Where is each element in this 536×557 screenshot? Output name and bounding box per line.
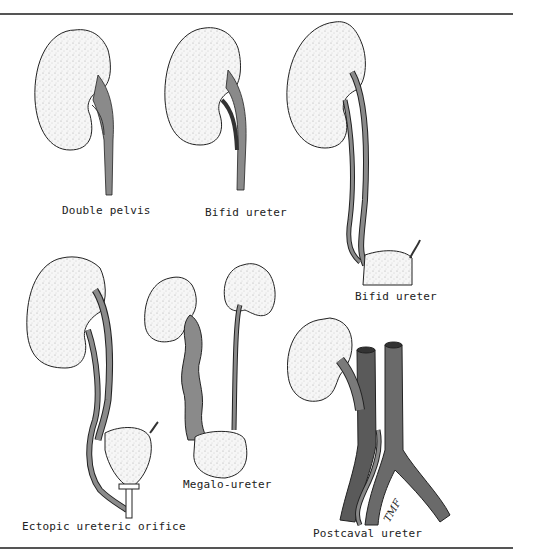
- label-bifid-ureter-2: Bifid ureter: [355, 290, 437, 303]
- urethra: [126, 488, 132, 518]
- panel-postcaval-ureter: [287, 318, 450, 525]
- anomalies-illustration: [0, 0, 536, 557]
- sphincter: [119, 484, 139, 489]
- panel-megalo-ureter: [145, 264, 275, 478]
- label-megalo-ureter: Megalo-ureter: [183, 478, 272, 491]
- megaureter: [182, 315, 208, 440]
- kidney-right: [224, 264, 275, 316]
- panel-bifid-ureter-1: [165, 28, 246, 190]
- ureter-contralateral: [410, 240, 420, 258]
- label-ectopic-ureteric-orifice: Ectopic ureteric orifice: [22, 520, 186, 533]
- vena-cava-lumen: [357, 347, 375, 353]
- panel-bifid-ureter-2: [287, 22, 420, 285]
- ureter-contralateral: [150, 422, 158, 433]
- bladder: [363, 251, 412, 285]
- bladder: [194, 431, 247, 478]
- panel-double-pelvis: [35, 30, 114, 195]
- panel-ectopic-ureteric-orifice: [27, 257, 158, 518]
- label-postcaval-ureter: Postcaval ureter: [313, 527, 422, 540]
- label-double-pelvis: Double pelvis: [62, 204, 151, 217]
- bladder: [105, 428, 151, 488]
- aorta-lumen: [385, 342, 402, 348]
- label-bifid-ureter-1: Bifid ureter: [205, 206, 287, 219]
- ureter: [93, 75, 113, 195]
- kidney: [287, 22, 366, 148]
